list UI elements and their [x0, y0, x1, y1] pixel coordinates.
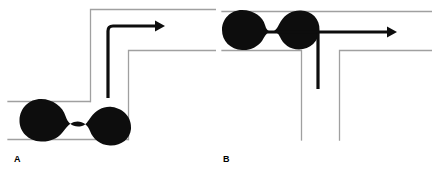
arrow-head [387, 27, 397, 38]
panel-a: A [0, 0, 216, 173]
arrow-head [155, 21, 165, 32]
panel-a-label: A [14, 155, 21, 164]
droplet-dumbbell-shape [19, 99, 131, 146]
panel-b-diagram [216, 0, 432, 173]
droplet-dumbbell-shape [222, 10, 320, 50]
panel-a-droplet [19, 99, 131, 146]
panel-a-diagram [0, 0, 216, 173]
wall-step-lower [129, 51, 217, 140]
wall-branch-right [340, 51, 432, 141]
figure-container: A [0, 0, 432, 173]
panel-b: B [216, 0, 432, 173]
arrow-elbow-path [108, 26, 156, 98]
panel-a-flow-arrow [108, 21, 165, 99]
panel-b-label: B [223, 155, 230, 164]
panel-b-droplet [222, 10, 320, 50]
